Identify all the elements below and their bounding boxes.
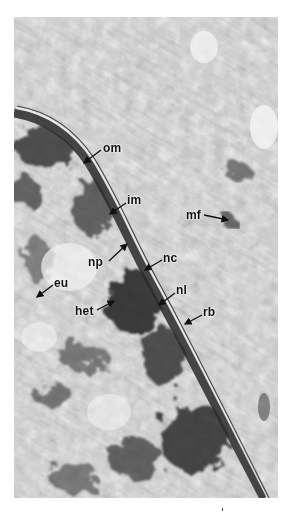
micrograph-texture	[14, 17, 278, 498]
label-nc: nc	[163, 252, 177, 264]
label-mf: mf	[186, 209, 201, 221]
label-eu: eu	[54, 277, 68, 289]
label-np: np	[88, 256, 103, 268]
label-om: om	[103, 142, 121, 154]
label-nl: nl	[176, 284, 187, 296]
tick-mark	[222, 508, 223, 511]
micrograph-image	[14, 17, 278, 498]
label-rb: rb	[203, 306, 215, 318]
label-im: im	[127, 194, 141, 206]
label-het: het	[75, 305, 94, 317]
